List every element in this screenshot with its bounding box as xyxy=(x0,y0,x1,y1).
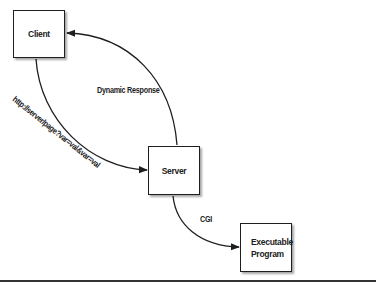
dynamic-response-label: Dynamic Response xyxy=(97,85,160,95)
client-label: Client xyxy=(28,28,50,40)
cgi-flow-diagram: Client Server Executable Program Dynamic… xyxy=(0,0,376,286)
executable-label-line2: Program xyxy=(251,248,293,260)
executable-label-line1: Executable xyxy=(251,236,293,248)
cgi-label: CGI xyxy=(200,214,212,224)
server-label: Server xyxy=(162,165,187,177)
server-node: Server xyxy=(148,146,200,195)
executable-program-node: Executable Program xyxy=(240,223,292,272)
bottom-divider xyxy=(0,280,376,282)
client-node: Client xyxy=(13,10,65,58)
